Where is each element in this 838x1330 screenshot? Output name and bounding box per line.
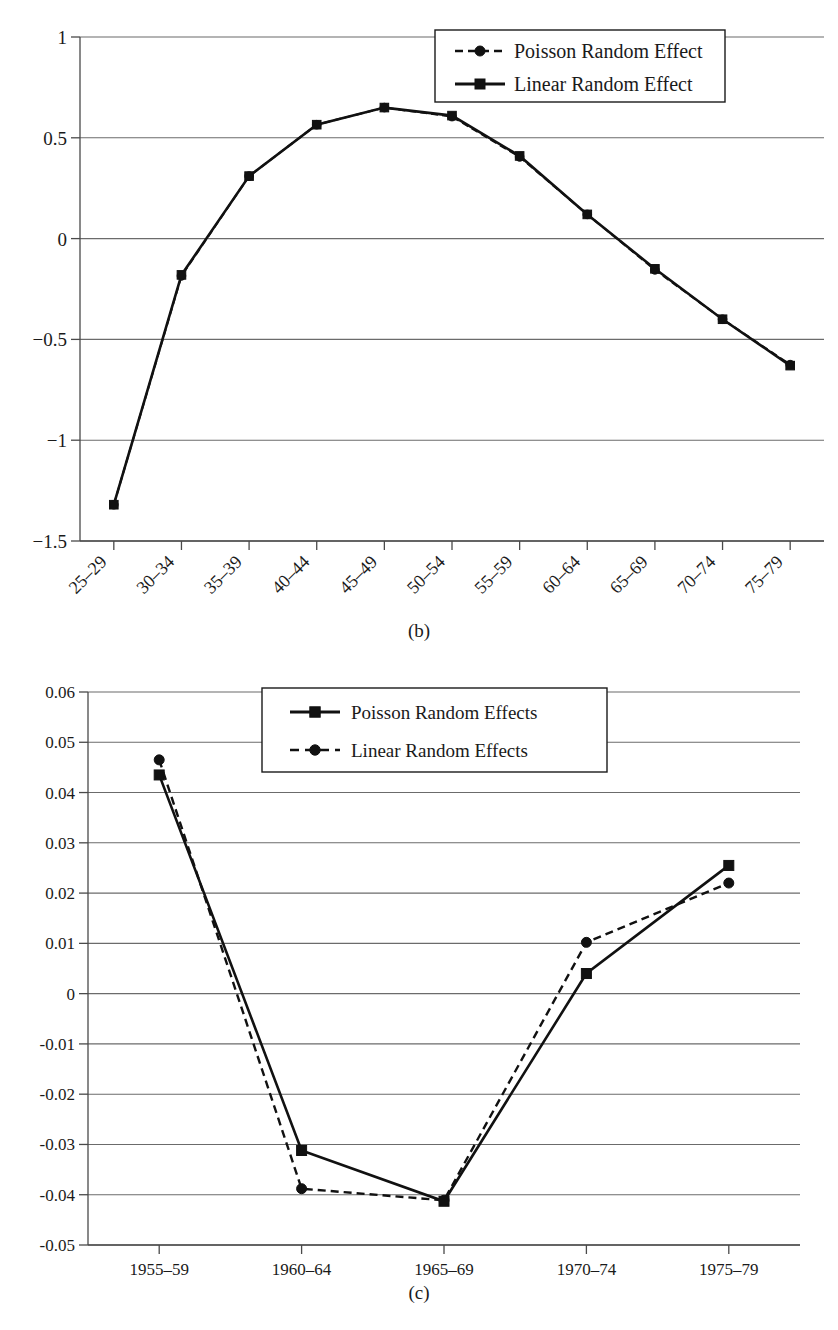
x-axis-category-label: 1955–59 [129, 1260, 189, 1279]
series-line-0 [114, 108, 790, 505]
chart-c-grid [88, 692, 800, 1245]
y-axis-tick-label: 0.06 [45, 683, 75, 702]
chart-b-svg: 10.50−0.5−1−1.525–2930–3435–3940–4445–49… [0, 0, 838, 620]
series-1-square-marker [583, 210, 592, 219]
series-line-0 [159, 775, 729, 1201]
series-line-1 [114, 108, 790, 505]
series-0-square-marker [724, 860, 734, 870]
figure-panel-c: 0.060.050.040.030.020.010-0.01-0.02-0.03… [0, 660, 838, 1330]
y-axis-tick-label: 0.02 [45, 884, 75, 903]
y-axis-tick-label: 0.01 [45, 934, 75, 953]
legend-0-square-marker [310, 707, 320, 717]
y-axis-tick-label: 0.05 [45, 733, 75, 752]
x-axis-category-label: 50–54 [403, 552, 449, 598]
series-1-square-marker [177, 271, 186, 280]
series-1-square-marker [380, 103, 389, 112]
x-axis-category-label: 55–59 [471, 552, 517, 598]
y-axis-tick-label: −1.5 [33, 531, 67, 552]
series-1-square-marker [718, 315, 727, 324]
series-line-1 [159, 760, 729, 1200]
y-axis-tick-label: 0 [67, 985, 76, 1004]
legend-label-1: Linear Random Effects [351, 740, 528, 761]
series-1-square-marker [110, 500, 119, 509]
x-axis-category-label: 40–44 [268, 552, 314, 598]
y-axis-tick-label: -0.02 [40, 1085, 75, 1104]
x-axis-category-label: 30–34 [132, 552, 178, 598]
y-axis-tick-label: -0.01 [40, 1035, 75, 1054]
y-axis-tick-label: −1 [47, 430, 67, 451]
legend-1-circle-marker [310, 745, 320, 755]
series-markers-1 [154, 755, 734, 1205]
legend-label-0: Poisson Random Effect [514, 40, 703, 62]
y-axis-tick-label: 0.5 [43, 128, 67, 149]
figure-panel-b: 10.50−0.5−1−1.525–2930–3435–3940–4445–49… [0, 0, 838, 660]
x-axis-category-label: 1970–74 [557, 1260, 617, 1279]
x-axis-category-label: 60–64 [538, 552, 584, 598]
chart-b-plot-area: 10.50−0.5−1−1.525–2930–3435–3940–4445–49… [0, 0, 838, 620]
series-markers-1 [110, 103, 795, 509]
x-axis-category-label: 1965–69 [414, 1260, 474, 1279]
series-1-square-marker [448, 111, 457, 120]
series-1-circle-marker [724, 878, 734, 888]
series-0-square-marker [581, 969, 591, 979]
series-1-square-marker [312, 120, 321, 129]
series-1-square-marker [651, 265, 660, 274]
y-axis-tick-label: -0.03 [40, 1135, 75, 1154]
y-axis-tick-label: 1 [58, 27, 68, 48]
x-axis-category-label: 70–74 [673, 552, 719, 598]
legend-label-1: Linear Random Effect [514, 73, 693, 95]
y-axis-tick-label: -0.05 [40, 1236, 75, 1255]
series-0-square-marker [154, 770, 164, 780]
series-1-square-marker [786, 361, 795, 370]
series-1-circle-marker [439, 1195, 449, 1205]
legend-0-circle-marker [475, 46, 485, 56]
x-axis-category-label: 75–79 [741, 552, 787, 598]
x-axis-category-label: 25–29 [65, 552, 111, 598]
y-axis-tick-label: 0 [58, 229, 68, 250]
series-0-square-marker [297, 1145, 307, 1155]
y-axis-tick-label: −0.5 [33, 329, 67, 350]
chart-c-legend: Poisson Random EffectsLinear Random Effe… [262, 688, 607, 772]
x-axis-category-label: 35–39 [200, 552, 246, 598]
panel-label-c: (c) [0, 1282, 838, 1304]
panel-label-b: (b) [0, 620, 838, 642]
series-markers-0 [110, 103, 795, 509]
series-1-circle-marker [154, 755, 164, 765]
x-axis-category-label: 1960–64 [272, 1260, 332, 1279]
series-1-circle-marker [297, 1184, 307, 1194]
chart-b-legend: Poisson Random EffectLinear Random Effec… [435, 30, 725, 102]
series-1-circle-marker [581, 937, 591, 947]
y-axis-tick-label: 0.03 [45, 834, 75, 853]
series-1-square-marker [515, 152, 524, 161]
legend-label-0: Poisson Random Effects [351, 702, 537, 723]
y-axis-tick-label: -0.04 [40, 1186, 76, 1205]
chart-c-svg: 0.060.050.040.030.020.010-0.01-0.02-0.03… [0, 660, 838, 1290]
x-axis-category-label: 65–69 [606, 552, 652, 598]
y-axis-tick-label: 0.04 [45, 784, 75, 803]
x-axis-category-label: 1975–79 [699, 1260, 759, 1279]
legend-1-square-marker [475, 79, 485, 89]
x-axis-category-label: 45–49 [335, 552, 381, 598]
series-1-square-marker [245, 172, 254, 181]
chart-c-plot-area: 0.060.050.040.030.020.010-0.01-0.02-0.03… [0, 660, 838, 1290]
